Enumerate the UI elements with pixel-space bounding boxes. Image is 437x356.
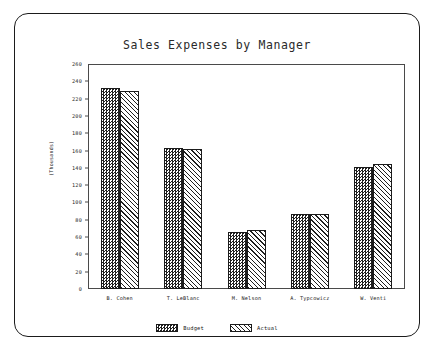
plot-area: 020406080100120140160180200220240260 B. … bbox=[88, 64, 405, 289]
y-tick-label-220: 220 bbox=[48, 96, 82, 102]
bar-budget[interactable] bbox=[164, 148, 183, 289]
x-tick-label: M. Nelson bbox=[215, 295, 278, 301]
chart-legend: BudgetActual bbox=[15, 324, 419, 332]
y-tick-mark bbox=[85, 237, 89, 238]
y-tick-mark bbox=[85, 81, 89, 82]
y-tick-label-120: 120 bbox=[48, 182, 82, 188]
bar-actual[interactable] bbox=[373, 164, 392, 289]
y-tick-label-60: 60 bbox=[48, 234, 82, 240]
x-tick-label: T. LeBlanc bbox=[151, 295, 214, 301]
chart-card: Sales Expenses by Manager (Thousands) 02… bbox=[14, 13, 420, 337]
x-tick-label: W. Venti bbox=[342, 295, 405, 301]
y-tick-mark bbox=[85, 202, 89, 203]
bar-actual[interactable] bbox=[120, 91, 139, 289]
bar-group bbox=[101, 64, 139, 289]
bar-group bbox=[291, 64, 329, 289]
y-tick-mark bbox=[85, 150, 89, 151]
bar-group bbox=[164, 64, 202, 289]
legend-item-actual[interactable]: Actual bbox=[230, 324, 278, 332]
bar-actual[interactable] bbox=[310, 214, 329, 289]
x-tick-label: B. Cohen bbox=[88, 295, 151, 301]
y-tick-mark bbox=[85, 98, 89, 99]
y-tick-mark bbox=[85, 167, 89, 168]
bar-budget[interactable] bbox=[291, 214, 310, 289]
y-tick-label-20: 20 bbox=[48, 269, 82, 275]
bar-group bbox=[354, 64, 392, 289]
legend-label: Actual bbox=[257, 325, 278, 331]
y-tick-label-200: 200 bbox=[48, 113, 82, 119]
bar-actual[interactable] bbox=[247, 230, 266, 289]
y-tick-label-140: 140 bbox=[48, 165, 82, 171]
bar-budget[interactable] bbox=[228, 232, 247, 289]
bar-budget[interactable] bbox=[101, 88, 120, 289]
y-tick-label-240: 240 bbox=[48, 78, 82, 84]
x-tick-label: A. Typcowicz bbox=[278, 295, 341, 301]
y-tick-mark bbox=[85, 254, 89, 255]
legend-label: Budget bbox=[183, 325, 204, 331]
y-tick-mark bbox=[85, 115, 89, 116]
y-tick-label-100: 100 bbox=[48, 199, 82, 205]
y-tick-label-0: 0 bbox=[48, 286, 82, 292]
legend-item-budget[interactable]: Budget bbox=[156, 324, 204, 332]
y-tick-mark bbox=[85, 271, 89, 272]
y-tick-label-260: 260 bbox=[48, 61, 82, 67]
page-title: Sales Expenses by Manager bbox=[15, 38, 419, 52]
y-tick-label-80: 80 bbox=[48, 217, 82, 223]
y-tick-mark bbox=[85, 219, 89, 220]
legend-swatch-icon bbox=[156, 324, 178, 332]
legend-swatch-icon bbox=[230, 324, 252, 332]
y-tick-label-40: 40 bbox=[48, 251, 82, 257]
y-tick-mark bbox=[85, 185, 89, 186]
y-tick-label-160: 160 bbox=[48, 148, 82, 154]
bar-group bbox=[228, 64, 266, 289]
y-tick-label-180: 180 bbox=[48, 130, 82, 136]
y-tick-mark bbox=[85, 133, 89, 134]
bar-budget[interactable] bbox=[354, 167, 373, 289]
bar-actual[interactable] bbox=[183, 149, 202, 289]
